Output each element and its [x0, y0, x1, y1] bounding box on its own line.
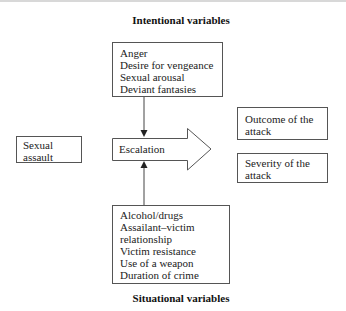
input-line: assault [23, 151, 81, 163]
input-line: Sexual [23, 139, 81, 151]
outcome-line: attack [245, 125, 327, 137]
situational-item: Alcohol/drugs [120, 209, 229, 221]
outcome-box: Outcome of the attack [237, 107, 328, 140]
situational-variables-title: Situational variables [131, 292, 231, 304]
situational-item: Assailant–victim [120, 221, 229, 233]
sexual-assault-box: Sexual assault [16, 136, 82, 163]
arrowhead-down-icon [141, 130, 148, 137]
severity-box: Severity of the attack [237, 153, 328, 183]
escalation-label: Escalation [119, 143, 165, 155]
situational-item: Victim resistance [120, 245, 229, 257]
situational-item: Duration of crime [120, 269, 229, 281]
situational-variables-box: Alcohol/drugs Assailant–victim relations… [112, 205, 230, 284]
arrowhead-up-icon [141, 161, 148, 168]
severity-line: Severity of the [245, 157, 327, 169]
situational-item: Use of a weapon [120, 257, 229, 269]
situational-item: relationship [120, 233, 229, 245]
outcome-line: Outcome of the [245, 113, 327, 125]
severity-line: attack [245, 169, 327, 181]
